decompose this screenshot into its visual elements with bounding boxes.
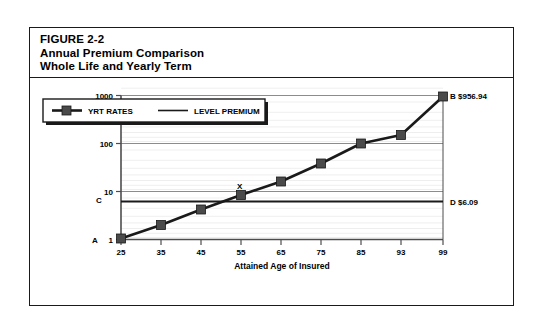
x-tick-label-25: 25: [117, 248, 126, 257]
data-point-45: [197, 205, 206, 214]
y-tick-label-1: 1: [109, 236, 114, 245]
chart-svg: 1000 100 10 1 25 35 45 55 65 75 85: [30, 78, 512, 307]
figure-title-line-2: Annual Premium Comparison: [40, 47, 513, 61]
x-tick-label-93: 93: [397, 248, 406, 257]
x-tick-label-75: 75: [317, 248, 326, 257]
data-point-35: [157, 221, 166, 230]
figure-title-line-3: Whole Life and Yearly Term: [40, 60, 513, 74]
annotation-c: C: [96, 196, 102, 205]
data-point-75: [317, 159, 326, 168]
y-tick-label-100: 100: [100, 140, 114, 149]
data-point-65: [277, 177, 286, 186]
y-tick-label-10: 10: [104, 188, 113, 197]
figure-title-line-1: FIGURE 2-2: [40, 33, 513, 47]
figure-frame: FIGURE 2-2 Annual Premium Comparison Who…: [29, 27, 514, 306]
x-tick-label-85: 85: [357, 248, 366, 257]
data-point-25: [117, 234, 126, 243]
chart-legend: YRT RATES LEVEL PREMIUM: [43, 99, 268, 125]
x-tick-label-45: 45: [197, 248, 206, 257]
x-axis-title: Attained Age of Insured: [234, 261, 330, 271]
crossover-marker-x: X: [237, 182, 243, 191]
plot-area: Dollars: [30, 78, 513, 307]
legend-label-level-premium: LEVEL PREMIUM: [194, 107, 260, 116]
legend-label-yrt-rates: YRT RATES: [88, 107, 133, 116]
annotation-d: D $6.09: [450, 198, 479, 207]
data-point-85: [357, 139, 366, 148]
x-tick-label-55: 55: [237, 248, 246, 257]
figure-title-box: FIGURE 2-2 Annual Premium Comparison Who…: [30, 28, 513, 78]
annotation-a: A: [92, 236, 98, 245]
annotation-b: B $956.94: [450, 92, 487, 101]
x-tick-label-65: 65: [277, 248, 286, 257]
x-tick-label-35: 35: [157, 248, 166, 257]
data-point-55: [237, 191, 246, 200]
data-point-99: [439, 92, 448, 101]
data-point-93: [397, 131, 406, 140]
x-tick-label-99: 99: [439, 248, 448, 257]
x-axis-ticks: [121, 240, 443, 246]
